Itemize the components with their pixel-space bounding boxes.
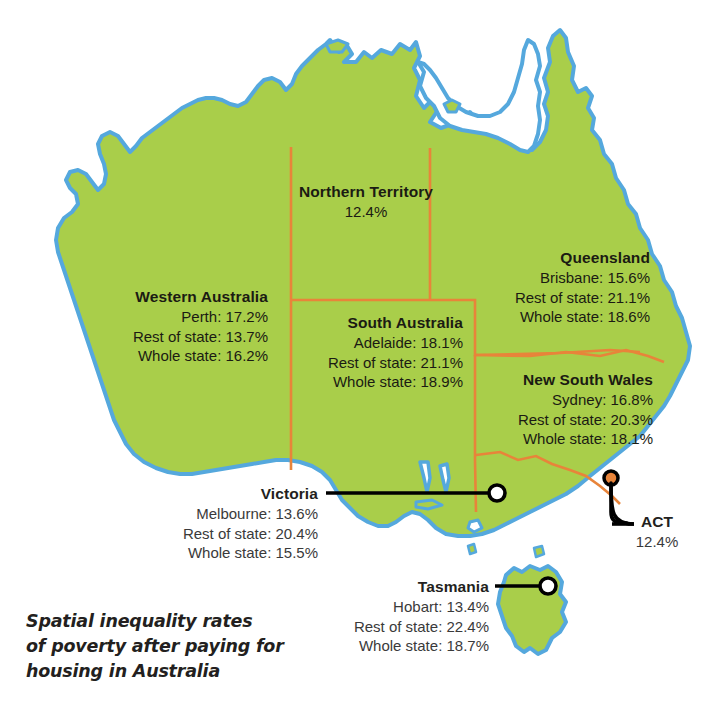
region-name-queensland: Queensland bbox=[450, 248, 650, 268]
region-stat-western-australia-perth: Perth: 17.2% bbox=[48, 307, 268, 327]
port-phillip-bay bbox=[468, 520, 482, 532]
tiwi-island bbox=[326, 40, 348, 52]
region-stat-victoria-melbourne: Melbourne: 13.6% bbox=[96, 504, 318, 524]
region-stat-queensland-whole: Whole state: 18.6% bbox=[450, 307, 650, 327]
tasmania-shape bbox=[498, 566, 566, 654]
flinders-island bbox=[534, 546, 544, 557]
gulf-island bbox=[444, 100, 460, 112]
region-stat-victoria-whole: Whole state: 15.5% bbox=[96, 543, 318, 563]
poverty-map-figure: Northern Territory 12.4% Western Austral… bbox=[0, 0, 706, 702]
region-stat-queensland-rest: Rest of state: 21.1% bbox=[450, 288, 650, 308]
region-stat-western-australia-rest: Rest of state: 13.7% bbox=[48, 327, 268, 347]
region-name-tasmania: Tasmania bbox=[267, 577, 489, 597]
region-label-northern-territory: Northern Territory 12.4% bbox=[281, 182, 451, 222]
caption-line-2: of poverty after paying for bbox=[26, 634, 316, 659]
region-stat-queensland-brisbane: Brisbane: 15.6% bbox=[450, 268, 650, 288]
region-name-victoria: Victoria bbox=[96, 484, 318, 504]
region-label-new-south-wales: New South Wales Sydney: 16.8% Rest of st… bbox=[440, 370, 653, 449]
region-label-queensland: Queensland Brisbane: 15.6% Rest of state… bbox=[450, 248, 650, 327]
region-stat-south-australia-adelaide: Adelaide: 18.1% bbox=[243, 333, 463, 353]
region-stat-new-south-wales-rest: Rest of state: 20.3% bbox=[440, 410, 653, 430]
region-stat-new-south-wales-whole: Whole state: 18.1% bbox=[440, 429, 653, 449]
region-name-new-south-wales: New South Wales bbox=[440, 370, 653, 390]
caption-line-3: housing in Australia bbox=[26, 659, 316, 684]
region-stat-western-australia-whole: Whole state: 16.2% bbox=[48, 346, 268, 366]
region-name-south-australia: South Australia bbox=[243, 313, 463, 333]
king-island bbox=[468, 544, 476, 554]
region-label-western-australia: Western Australia Perth: 17.2% Rest of s… bbox=[48, 287, 268, 366]
region-stat-victoria-rest: Rest of state: 20.4% bbox=[96, 524, 318, 544]
region-stat-south-australia-rest: Rest of state: 21.1% bbox=[243, 353, 463, 373]
region-label-act: ACT 12.4% bbox=[620, 512, 694, 552]
region-stat-act-whole: 12.4% bbox=[620, 532, 694, 552]
caption-line-1: Spatial inequality rates bbox=[26, 609, 316, 634]
region-name-northern-territory: Northern Territory bbox=[281, 182, 451, 202]
region-stat-northern-territory-whole: 12.4% bbox=[281, 202, 451, 222]
act-map-marker bbox=[604, 471, 618, 485]
region-stat-south-australia-whole: Whole state: 18.9% bbox=[243, 372, 463, 392]
region-name-western-australia: Western Australia bbox=[48, 287, 268, 307]
region-name-act: ACT bbox=[620, 512, 694, 532]
figure-caption: Spatial inequality rates of poverty afte… bbox=[26, 609, 316, 684]
region-stat-new-south-wales-sydney: Sydney: 16.8% bbox=[440, 390, 653, 410]
region-label-south-australia: South Australia Adelaide: 18.1% Rest of … bbox=[243, 313, 463, 392]
region-label-victoria: Victoria Melbourne: 13.6% Rest of state:… bbox=[96, 484, 318, 563]
